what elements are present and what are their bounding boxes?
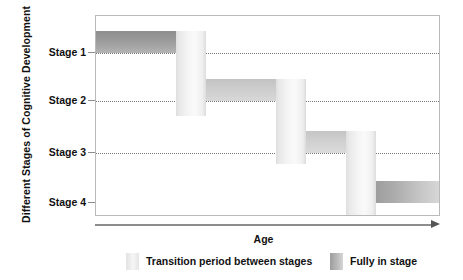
gridline-stage-2 (96, 101, 439, 102)
legend-label-fully: Fully in stage (350, 255, 417, 267)
legend-entry-transition: Transition period between stages (126, 252, 312, 270)
transition-bar-stage-3-to-4 (346, 131, 376, 216)
plot-area (95, 15, 440, 216)
y-tick-label-stage-1: Stage 1 (40, 46, 86, 58)
x-axis-line (95, 224, 432, 226)
transition-bar-stage-2-to-3 (276, 79, 306, 164)
legend-swatch-transition-icon (126, 253, 139, 270)
y-axis-tick-labels: Stage 1 Stage 2 Stage 3 Stage 4 (40, 0, 86, 280)
stage-band-fully-stage-3 (306, 131, 346, 153)
stage-band-fully-stage-4 (376, 181, 440, 203)
legend-entry-fully: Fully in stage (330, 252, 417, 270)
y-axis-title: Different Stages of Cognitive Developmen… (20, 13, 32, 223)
transition-bar-stage-1-to-2 (176, 31, 206, 116)
legend-label-transition: Transition period between stages (146, 255, 312, 267)
gridline-stage-3 (96, 153, 439, 154)
x-axis-arrow-icon (431, 220, 440, 228)
y-tick-label-stage-4: Stage 4 (40, 196, 86, 208)
y-tick-label-stage-2: Stage 2 (40, 94, 86, 106)
chart-legend: Transition period between stages Fully i… (126, 252, 436, 272)
stage-band-fully-stage-1 (96, 31, 176, 53)
stage-band-fully-stage-2 (206, 79, 276, 101)
x-axis-title: Age (95, 233, 432, 245)
cognitive-development-step-chart: Different Stages of Cognitive Developmen… (0, 0, 463, 280)
gridline-stage-1 (96, 53, 439, 54)
y-tick-label-stage-3: Stage 3 (40, 146, 86, 158)
legend-swatch-fully-icon (330, 253, 343, 270)
